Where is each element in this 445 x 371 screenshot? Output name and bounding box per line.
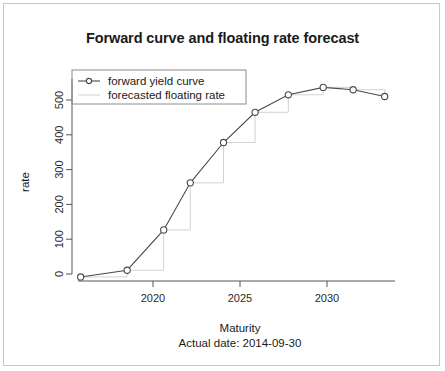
series-forward-yield-curve [78, 84, 388, 280]
y-tick-label: 200 [53, 195, 65, 213]
x-tick-label: 2020 [141, 292, 165, 304]
y-tick-label: 0 [53, 271, 65, 277]
y-tick-label: 100 [53, 230, 65, 248]
series-forecasted-floating-rate [81, 87, 385, 277]
legend-entry-forecasted-floating-rate: forecasted floating rate [78, 89, 225, 101]
data-point [252, 109, 258, 115]
chart-canvas: Forward curve and floating rate forecast… [0, 0, 445, 371]
legend-label: forecasted floating rate [108, 89, 225, 101]
y-tick-label: 500 [53, 91, 65, 109]
data-point [124, 267, 130, 273]
x-axis-title: Maturity [220, 322, 261, 334]
y-axis: 0 100 200 300 400 500 rate [19, 79, 72, 277]
x-tick-label: 2030 [315, 292, 339, 304]
data-point [350, 87, 356, 93]
y-axis-title: rate [19, 172, 31, 192]
y-tick-label: 400 [53, 126, 65, 144]
data-point [320, 84, 326, 90]
plot-area: 0 100 200 300 400 500 rate 2020 2025 203… [0, 0, 445, 371]
data-point [285, 92, 291, 98]
y-tick-label: 300 [53, 160, 65, 178]
x-axis: 2020 2025 2030 Maturity Actual date: 201… [78, 281, 395, 349]
data-point [161, 227, 167, 233]
data-point [220, 139, 226, 145]
data-point-markers [78, 84, 388, 280]
data-point [187, 180, 193, 186]
x-tick-label: 2025 [228, 292, 252, 304]
data-point [382, 93, 388, 99]
legend-label: forward yield curve [108, 75, 205, 87]
actual-date-annotation: Actual date: 2014-09-30 [179, 337, 302, 349]
legend-entry-forward-yield-curve: forward yield curve [78, 75, 205, 87]
chart-legend: forward yield curve forecasted floating … [72, 70, 246, 104]
data-point [78, 274, 84, 280]
